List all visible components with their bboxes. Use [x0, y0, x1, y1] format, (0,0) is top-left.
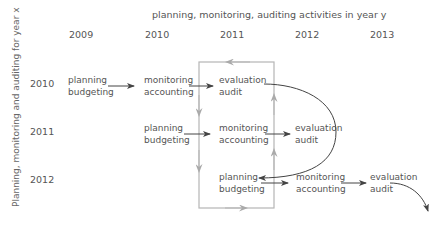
diagram-connectors — [0, 0, 440, 225]
cycle-box — [199, 62, 274, 208]
